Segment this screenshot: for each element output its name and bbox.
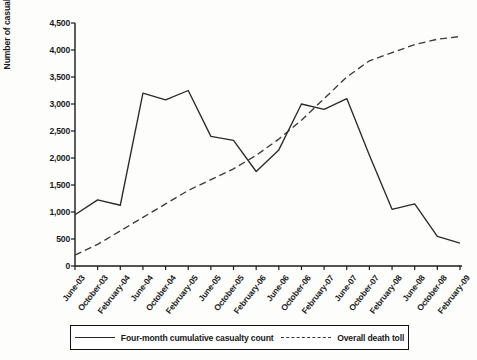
solid-line-swatch-icon — [75, 337, 115, 338]
x-axis-tick-labels: June-03October-03February-04June-04Octob… — [0, 0, 477, 360]
chart-legend: Four-month cumulative casualty count Ove… — [70, 325, 409, 350]
legend-item-casualty-count: Four-month cumulative casualty count — [75, 333, 274, 343]
legend-label-casualty-count: Four-month cumulative casualty count — [121, 333, 274, 343]
legend-label-death-toll: Overall death toll — [337, 333, 404, 343]
dashed-line-swatch-icon — [281, 337, 331, 338]
casualties-line-chart: Number of casualties 05001,0001,5002,000… — [0, 0, 477, 360]
legend-item-death-toll: Overall death toll — [281, 333, 404, 343]
